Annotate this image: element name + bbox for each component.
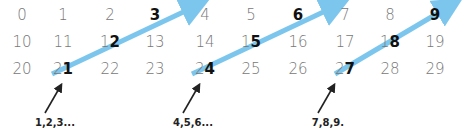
grid-number: 11 bbox=[53, 33, 72, 51]
grid-number: 27 bbox=[335, 60, 355, 78]
label-1: 1,2,3... bbox=[35, 117, 75, 128]
grid-number: 23 bbox=[145, 60, 164, 78]
grid-number: 8 bbox=[385, 6, 395, 24]
number-grid-diagram: 0123456789101112131415161718192021222324… bbox=[0, 0, 464, 133]
grid-number: 19 bbox=[425, 33, 444, 51]
grid-number: 13 bbox=[145, 33, 164, 51]
grid-number: 16 bbox=[288, 33, 307, 51]
grid-number: 7 bbox=[340, 6, 350, 24]
pointer-arrow-1 bbox=[45, 87, 60, 113]
grid-number: 3 bbox=[150, 6, 160, 24]
diagonal-arrow-1 bbox=[52, 6, 196, 74]
pointer-arrow-3 bbox=[318, 87, 333, 113]
grid-number: 5 bbox=[246, 6, 256, 24]
grid-number: 26 bbox=[288, 60, 307, 78]
grid-number: 12 bbox=[100, 33, 120, 51]
grid-number: 0 bbox=[17, 6, 27, 24]
pointer-arrow-2 bbox=[183, 87, 198, 113]
grid-number: 28 bbox=[380, 60, 399, 78]
grid-number: 15 bbox=[241, 33, 261, 51]
grid-number: 6 bbox=[293, 6, 303, 24]
grid-number: 2 bbox=[105, 6, 115, 24]
grid-number: 9 bbox=[430, 6, 440, 24]
grid-number: 25 bbox=[241, 60, 260, 78]
label-3: 7,8,9. bbox=[312, 117, 344, 128]
grid-number: 24 bbox=[195, 60, 215, 78]
grid-number: 1 bbox=[58, 6, 68, 24]
grid-number: 29 bbox=[425, 60, 444, 78]
grid-number: 21 bbox=[53, 60, 73, 78]
grid-number: 17 bbox=[335, 33, 354, 51]
grid-number: 4 bbox=[200, 6, 210, 24]
label-2: 4,5,6... bbox=[173, 117, 213, 128]
grid-number: 20 bbox=[12, 60, 31, 78]
grid-number: 18 bbox=[380, 33, 400, 51]
grid-number: 14 bbox=[195, 33, 214, 51]
grid-number: 22 bbox=[100, 60, 119, 78]
grid-number: 10 bbox=[12, 33, 31, 51]
